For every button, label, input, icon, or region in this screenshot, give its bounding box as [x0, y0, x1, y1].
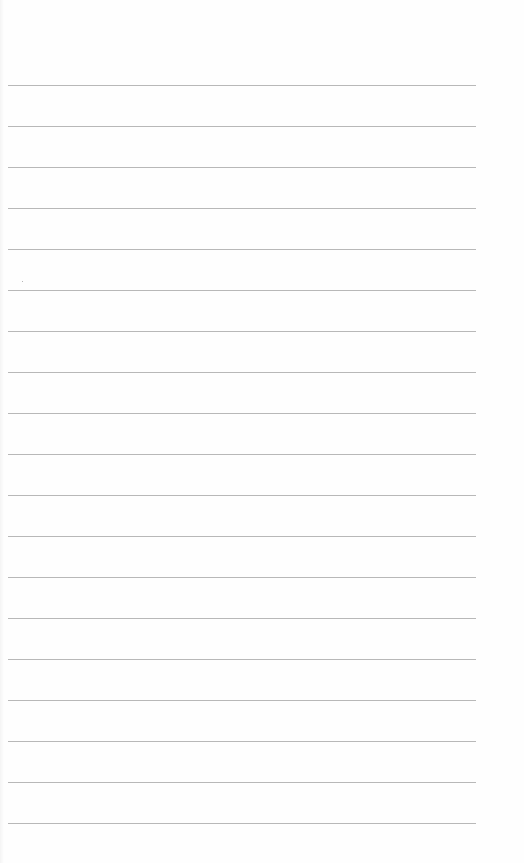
ruled-line — [8, 536, 476, 537]
ruled-line — [8, 454, 476, 455]
ruled-line — [8, 126, 476, 127]
ruled-line — [8, 782, 476, 783]
ruled-line — [8, 741, 476, 742]
ruled-line — [8, 208, 476, 209]
ruled-line — [8, 372, 476, 373]
page-edge-shadow — [0, 0, 4, 863]
ruled-line — [8, 495, 476, 496]
ruled-line — [8, 700, 476, 701]
ruled-page — [0, 0, 524, 863]
ruled-line — [8, 331, 476, 332]
paper-speck — [22, 281, 23, 282]
ruled-line — [8, 413, 476, 414]
ruled-line — [8, 167, 476, 168]
ruled-line — [8, 577, 476, 578]
ruled-line — [8, 618, 476, 619]
ruled-line — [8, 290, 476, 291]
ruled-line — [8, 823, 476, 824]
ruled-line — [8, 249, 476, 250]
ruled-line — [8, 659, 476, 660]
ruled-line — [8, 85, 476, 86]
